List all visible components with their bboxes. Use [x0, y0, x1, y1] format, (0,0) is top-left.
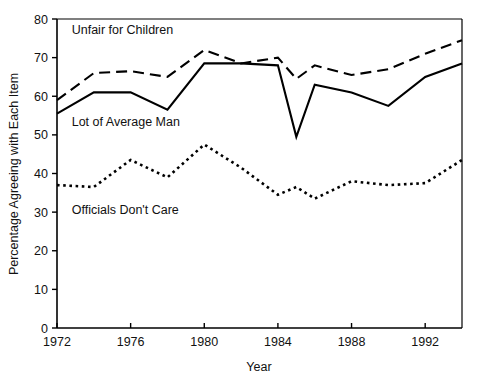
- x-tick-label: 1980: [190, 335, 218, 349]
- x-tick-label: 1992: [411, 335, 439, 349]
- y-tick-label: 10: [34, 283, 48, 297]
- series-label-unfair-for-children: Unfair for Children: [72, 23, 173, 37]
- series-label-officials-don-t-care: Officials Don't Care: [72, 203, 179, 217]
- chart-background: [0, 0, 494, 382]
- y-tick-label: 40: [34, 167, 48, 181]
- y-tick-label: 80: [34, 13, 48, 27]
- x-tick-label: 1988: [338, 335, 366, 349]
- line-chart: 01020304050607080 1972197619801984198819…: [0, 0, 494, 382]
- series-label-lot-of-average-man: Lot of Average Man: [72, 115, 180, 129]
- y-tick-label: 60: [34, 90, 48, 104]
- chart-container: 01020304050607080 1972197619801984198819…: [0, 0, 494, 382]
- x-tick-label: 1972: [43, 335, 71, 349]
- y-tick-label: 20: [34, 244, 48, 258]
- y-tick-label: 70: [34, 51, 48, 65]
- y-tick-label: 30: [34, 206, 48, 220]
- x-tick-label: 1976: [117, 335, 145, 349]
- x-tick-label: 1984: [264, 335, 292, 349]
- x-axis-title: Year: [246, 360, 271, 374]
- y-tick-label: 50: [34, 128, 48, 142]
- y-axis-title: Percentage Agreeing with Each Item: [7, 73, 21, 275]
- y-tick-label: 0: [41, 322, 48, 336]
